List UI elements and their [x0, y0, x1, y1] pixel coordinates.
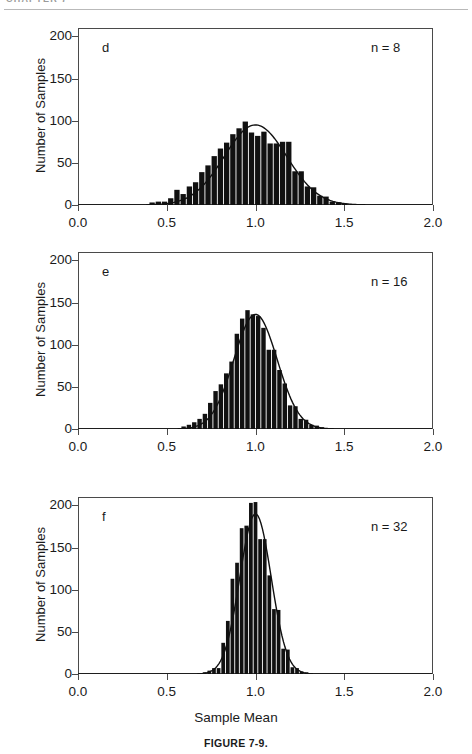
y-tick-mark	[72, 303, 78, 304]
histogram-bar	[292, 171, 297, 205]
header-rule	[4, 9, 468, 10]
y-tick-mark	[72, 548, 78, 549]
x-tick-mark	[344, 429, 345, 435]
histogram-bar	[291, 667, 295, 674]
x-tick-mark	[256, 674, 257, 680]
y-axis-title: Number of Samples	[33, 494, 48, 674]
histogram-bar	[256, 316, 260, 429]
histogram-bar	[263, 539, 267, 674]
x-tick-mark	[344, 674, 345, 680]
histogram-bar	[254, 502, 258, 674]
y-tick-mark	[72, 79, 78, 80]
x-tick-mark	[167, 429, 168, 435]
histogram-bar	[272, 609, 276, 674]
sample-size-annotation: n = 8	[371, 40, 400, 55]
y-tick-mark	[72, 387, 78, 388]
y-tick-mark	[72, 505, 78, 506]
x-tick-label: 0.0	[53, 215, 103, 230]
histogram-bar	[249, 503, 253, 674]
x-tick-mark	[256, 429, 257, 435]
histogram-bar	[261, 132, 266, 205]
histogram-bar	[288, 405, 292, 429]
histogram-bar	[255, 136, 260, 205]
x-tick-label: 1.5	[319, 684, 369, 699]
figure-page: CHAPTER 7 0501001502000.00.51.01.52.0Num…	[0, 0, 472, 754]
histogram-bar	[217, 668, 221, 674]
histogram-bar	[267, 575, 271, 674]
x-tick-label: 0.0	[53, 439, 103, 454]
x-tick-label: 1.0	[231, 215, 281, 230]
y-tick-mark	[72, 260, 78, 261]
y-axis-title: Number of Samples	[33, 25, 48, 205]
histogram-bar	[277, 370, 281, 429]
y-tick-mark	[72, 36, 78, 37]
y-tick-mark	[72, 590, 78, 591]
histogram-bar	[219, 384, 223, 429]
histogram-bar	[235, 563, 239, 674]
histogram-bar	[240, 528, 244, 674]
histogram-bar	[218, 149, 223, 205]
x-tick-mark	[256, 205, 257, 211]
x-tick-mark	[167, 674, 168, 680]
histogram-bar	[274, 143, 279, 205]
histogram-bar	[267, 350, 271, 429]
histogram-bar	[230, 134, 235, 205]
x-tick-mark	[344, 205, 345, 211]
histogram-bar	[245, 310, 249, 429]
x-tick-label: 0.5	[142, 215, 192, 230]
x-tick-mark	[78, 429, 79, 435]
normal-curve	[78, 125, 432, 205]
x-tick-mark	[78, 205, 79, 211]
histogram-bar	[261, 328, 265, 429]
histogram-bar	[212, 156, 217, 205]
panel-letter-e: e	[102, 264, 109, 279]
x-tick-label: 0.5	[142, 684, 192, 699]
sample-size-annotation: n = 32	[371, 519, 408, 534]
sample-size-annotation: n = 16	[371, 274, 408, 289]
histogram-bar	[267, 143, 272, 205]
histogram-bar	[258, 539, 262, 674]
x-tick-label: 2.0	[408, 439, 458, 454]
y-tick-mark	[72, 121, 78, 122]
y-tick-mark	[72, 345, 78, 346]
histogram-bar	[249, 133, 254, 205]
x-tick-label: 1.0	[231, 439, 281, 454]
x-tick-mark	[78, 674, 79, 680]
histogram-bar	[251, 314, 255, 429]
x-tick-label: 2.0	[408, 684, 458, 699]
running-header-text: CHAPTER 7	[6, 0, 68, 4]
panel-letter-f: f	[102, 509, 106, 524]
histogram-bar	[299, 171, 304, 205]
x-tick-mark	[167, 205, 168, 211]
histogram-bar	[205, 165, 210, 205]
x-tick-label: 2.0	[408, 215, 458, 230]
y-axis-title: Number of Samples	[33, 249, 48, 429]
histogram-bar	[272, 350, 276, 429]
running-header: CHAPTER 7	[0, 0, 472, 11]
x-tick-mark	[433, 205, 434, 211]
histogram-bar	[281, 649, 285, 674]
y-tick-mark	[72, 163, 78, 164]
histogram-bar	[283, 383, 287, 429]
x-tick-mark	[433, 674, 434, 680]
x-axis-title: Sample Mean	[0, 710, 472, 725]
x-tick-label: 0.5	[142, 439, 192, 454]
x-tick-label: 1.5	[319, 439, 369, 454]
figure-caption: FIGURE 7-9.	[0, 737, 472, 749]
x-tick-mark	[433, 429, 434, 435]
histogram-bar	[236, 128, 241, 205]
x-tick-label: 1.0	[231, 684, 281, 699]
histogram-bar	[299, 419, 303, 429]
histogram-bar	[286, 142, 291, 205]
histogram-bar	[305, 186, 310, 205]
histogram-bar	[243, 122, 248, 205]
x-tick-label: 1.5	[319, 215, 369, 230]
x-tick-label: 0.0	[53, 684, 103, 699]
panel-letter-d: d	[102, 40, 109, 55]
y-tick-mark	[72, 632, 78, 633]
